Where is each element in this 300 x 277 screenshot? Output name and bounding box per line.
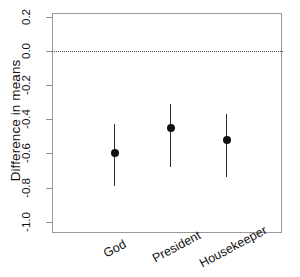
data-point-marker [167,124,175,132]
y-tick-label-text: 0.0 [20,43,32,59]
y-tick-label: 0.0 [6,44,46,58]
error-bar-chart: Difference in means 0.20.0-0.2-0.4-0.6-0… [0,0,300,277]
y-axis-title-text: Difference in means [9,59,24,181]
error-bar-whisker [226,114,227,177]
y-tick-label-text: -1.0 [20,212,32,232]
data-point-marker [223,136,231,144]
y-tick-label-text: -0.6 [20,143,32,163]
plot-area-border [52,13,282,233]
data-point-marker [111,149,119,157]
x-tick-label: God [101,237,128,260]
y-tick-label: -0.8 [6,181,46,195]
y-axis-title: Difference in means [6,0,26,240]
y-tick-label-text: -0.8 [20,178,32,198]
y-tick-label-text: -0.2 [20,75,32,95]
y-tick-label: -0.2 [6,78,46,92]
y-tick-label: -1.0 [6,215,46,229]
error-bar-whisker [170,104,171,167]
y-tick-label-text: 0.2 [20,9,32,25]
y-tick-label: -0.6 [6,146,46,160]
x-tick-label: President [150,228,203,265]
y-tick-label: 0.2 [6,10,46,24]
y-tick-label-text: -0.4 [20,109,32,129]
zero-reference-line [52,51,283,52]
y-tick-label: -0.4 [6,112,46,126]
